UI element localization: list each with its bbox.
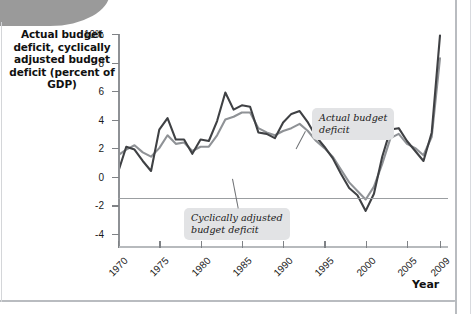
x-tick-1975 [159,241,160,248]
y-tick-label: 0 [98,171,104,182]
y-tick-label: 2 [98,143,104,154]
y-axis-line [118,34,120,248]
x-tick-label: 2000 [354,255,378,279]
x-tick-label: 1970 [106,255,130,279]
x-tick-label: 2005 [395,255,419,279]
y-tick-label: 8 [98,57,104,68]
y-tick-10%: 10% [112,34,119,35]
y-tick--2: -2 [112,205,119,206]
x-tick-label: 1985 [230,255,254,279]
x-tick-1995 [324,241,325,248]
annotation-cyclically-adjusted: Cyclically adjusted budget deficit [184,208,290,240]
y-tick-8: 8 [112,63,119,64]
x-tick-label: 1980 [189,255,213,279]
x-axis-title: Year [412,278,439,291]
x-tick-label: 2009 [428,255,452,279]
zero-reference-line [118,198,448,199]
x-tick-label: 1995 [313,255,337,279]
x-tick-2009 [440,241,441,248]
y-tick--4: -4 [112,234,119,235]
y-tick-label: 10% [84,29,104,40]
x-tick-1985 [242,241,243,248]
annotation-actual-budget-deficit: Actual budget deficit [312,108,394,140]
figure-page: Actual budget deficit, cyclically adjust… [0,0,476,314]
x-tick-1990 [283,241,284,248]
x-tick-label: 1990 [271,255,295,279]
x-tick-2005 [407,241,408,248]
x-tick-1970 [118,241,119,248]
page-frame-bottom [0,300,456,302]
page-frame-left [1,22,2,302]
y-tick-2: 2 [112,148,119,149]
x-tick-2000 [366,241,367,248]
y-tick-label: 6 [98,86,104,97]
x-tick-1980 [201,241,202,248]
y-tick-0: 0 [112,177,119,178]
page-frame-right-outer [470,0,471,314]
y-tick-label: 4 [98,114,104,125]
x-tick-label: 1975 [148,255,172,279]
y-tick-label: -4 [95,228,104,239]
y-tick-label: -2 [95,200,104,211]
y-tick-6: 6 [112,91,119,92]
y-tick-4: 4 [112,120,119,121]
corner-decoration [0,0,110,26]
